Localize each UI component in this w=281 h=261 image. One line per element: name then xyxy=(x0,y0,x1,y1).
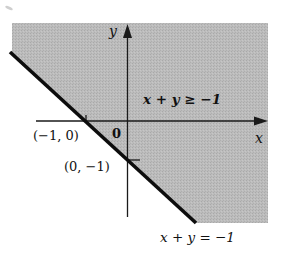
origin-label: 0 xyxy=(112,126,121,141)
shaded-region xyxy=(12,23,268,223)
point-label-x-intercept: (−1, 0) xyxy=(33,128,79,143)
region-label: x + y ≥ −1 xyxy=(142,91,221,107)
smudge-mark xyxy=(5,5,14,11)
y-axis-label: y xyxy=(108,23,118,39)
inequality-graph: y x 0 x + y ≥ −1 (−1, 0) (0, −1) x + y =… xyxy=(0,0,281,261)
boundary-label: x + y = −1 xyxy=(160,229,235,245)
point-label-y-intercept: (0, −1) xyxy=(64,159,110,174)
x-axis-label: x xyxy=(255,130,263,146)
